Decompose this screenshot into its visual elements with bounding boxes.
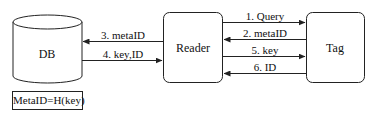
edge-label-6: 6. ID [254, 61, 277, 73]
tag-label: Tag [326, 41, 344, 55]
db-label: DB [39, 47, 56, 61]
reader-label: Reader [176, 41, 210, 55]
metaid-formula-box: MetaID=H(key) [12, 91, 83, 110]
edge-label-4: 4. key,ID [103, 48, 144, 60]
edge-label-1: 1. Query [246, 10, 285, 22]
edge-label-2: 2. metaID [243, 27, 287, 39]
edge-label-5: 5. key [252, 44, 279, 56]
edge-label-3: 3. metaID [101, 29, 145, 41]
